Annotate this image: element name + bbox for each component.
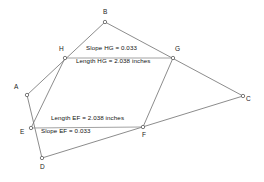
vertices-group xyxy=(25,20,244,159)
vertex-label-b: B xyxy=(103,9,108,16)
vertex-label-c: C xyxy=(246,96,251,103)
measurement-label-length-ef[interactable]: Length EF = 2.038 inches xyxy=(51,115,124,121)
edges-group xyxy=(27,22,243,158)
measurement-label-slope-hg[interactable]: Slope HG = 0.033 xyxy=(86,45,137,51)
vertex-label-f: F xyxy=(142,132,146,139)
vertex-point-d[interactable] xyxy=(40,156,43,159)
vertex-point-f[interactable] xyxy=(141,125,144,128)
vertex-point-e[interactable] xyxy=(29,126,32,129)
vertex-label-h: H xyxy=(59,46,64,53)
vertex-label-g: G xyxy=(175,46,180,53)
vertex-label-a: A xyxy=(14,84,19,91)
vertex-label-d: D xyxy=(40,164,45,171)
vertex-point-g[interactable] xyxy=(171,56,174,59)
edge-G-F xyxy=(143,58,173,127)
vertex-point-h[interactable] xyxy=(63,56,66,59)
vertex-point-c[interactable] xyxy=(241,94,244,97)
measurement-label-length-hg[interactable]: Length HG = 2.038 inches xyxy=(76,58,150,64)
vertex-point-a[interactable] xyxy=(25,93,28,96)
vertex-label-e: E xyxy=(20,129,25,136)
edge-D-A xyxy=(27,95,42,158)
geometry-canvas xyxy=(0,0,264,182)
vertex-point-b[interactable] xyxy=(103,20,106,23)
geometry-figure: ABCDEFGH Slope HG = 0.033Length HG = 2.0… xyxy=(0,0,264,182)
measurement-label-slope-ef[interactable]: Slope EF = 0.033 xyxy=(41,128,91,134)
